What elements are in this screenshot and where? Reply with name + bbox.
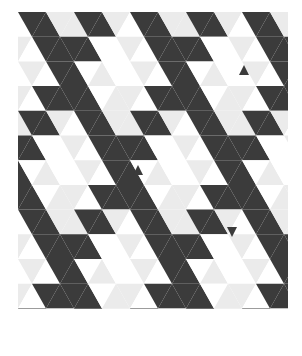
triangle-up — [88, 308, 116, 333]
triangle-down — [242, 308, 270, 333]
triangle-pattern — [0, 0, 302, 356]
triangle-down — [214, 308, 242, 333]
triangle-up — [172, 308, 200, 333]
triangle-down — [298, 111, 302, 136]
triangle-up — [0, 234, 18, 259]
triangle-up — [0, 185, 18, 210]
triangle-up — [0, 136, 18, 161]
triangle-down — [18, 308, 46, 333]
triangle-up — [200, 308, 228, 333]
triangle-up — [0, 37, 18, 62]
triangle-down — [0, 210, 18, 235]
triangle-up — [116, 308, 144, 333]
triangle-down — [298, 61, 302, 86]
triangle-down — [46, 308, 74, 333]
triangle-down — [298, 160, 302, 185]
triangle-down — [0, 160, 18, 185]
triangle-up — [0, 284, 18, 309]
triangle-down — [0, 12, 18, 37]
triangle-up — [228, 308, 256, 333]
triangle-down — [270, 308, 298, 333]
triangle-down — [298, 259, 302, 284]
triangle-up — [4, 308, 32, 333]
triangle-down — [0, 61, 18, 86]
triangle-up — [298, 86, 302, 111]
triangle-down — [0, 259, 18, 284]
triangle-up — [256, 308, 284, 333]
triangle-down — [158, 308, 186, 333]
triangle-down — [130, 308, 158, 333]
triangle-up — [32, 308, 60, 333]
triangle-down — [298, 210, 302, 235]
triangle-up — [298, 185, 302, 210]
triangle-down — [0, 111, 18, 136]
triangle-down — [102, 308, 130, 333]
triangle-down — [0, 308, 18, 333]
triangle-up — [284, 308, 302, 333]
triangle-up — [60, 308, 88, 333]
triangle-down — [74, 308, 102, 333]
triangle-down — [298, 308, 302, 333]
triangle-down — [298, 12, 302, 37]
triangle-up — [298, 284, 302, 309]
triangle-up — [0, 86, 18, 111]
triangle-up — [144, 308, 172, 333]
triangle-up — [298, 136, 302, 161]
triangle-up — [298, 37, 302, 62]
triangle-up — [298, 234, 302, 259]
triangle-down — [186, 308, 214, 333]
triangle-grid — [0, 12, 302, 333]
